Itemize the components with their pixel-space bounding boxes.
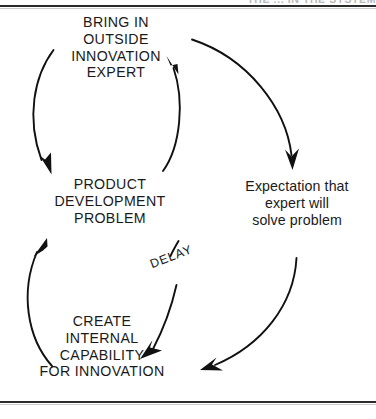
link-bring-in-to-expectation-path: [192, 40, 292, 156]
link-bring-in-to-product-arrowhead: [40, 153, 52, 175]
link-expectation-to-create-internal: [200, 258, 297, 371]
link-product-to-bring-in-path: [163, 68, 180, 171]
link-create-internal-to-product-arrowhead: [34, 238, 48, 257]
link-bring-in-to-expectation: [192, 40, 299, 171]
node-expectation-that-expert-will-solve-problem: Expectation that expert will solve probl…: [226, 178, 368, 228]
node-bring-in-outside-innovation-expert: BRING IN OUTSIDE INNOVATION EXPERT: [46, 14, 186, 81]
causal-loop-diagram-figure: THE ... IN THE SYSTEM: [0, 0, 376, 419]
node-product-development-problem: PRODUCT DEVELOPMENT PROBLEM: [40, 176, 180, 226]
bottom-rule-hairline: [0, 404, 376, 405]
bottom-rule: [0, 401, 376, 403]
node-create-internal-capability-for-innovation: CREATE INTERNAL CAPABILITY FOR INNOVATIO…: [16, 313, 188, 380]
link-expectation-to-create-internal-path: [215, 258, 297, 365]
